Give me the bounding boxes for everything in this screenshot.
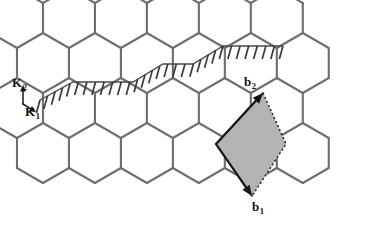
hatch-tick <box>118 82 122 95</box>
hatch-tick <box>245 46 249 59</box>
lattice-edge <box>277 168 303 183</box>
lattice-edge <box>17 168 43 183</box>
lattice-edge <box>173 0 199 3</box>
hatch-tick <box>271 46 275 59</box>
lattice-edge <box>43 0 69 3</box>
vector-label-b2: b2 <box>244 75 255 88</box>
lattice-edge <box>17 33 43 48</box>
lattice-edge <box>225 0 251 3</box>
lattice-edge <box>0 123 17 138</box>
lattice-canvas <box>0 0 370 233</box>
lattice-edge <box>199 0 225 3</box>
unit-cell-rhombus <box>216 93 286 196</box>
lattice-edge <box>17 0 43 3</box>
hatch-tick <box>164 64 168 77</box>
lattice-edge <box>147 168 173 183</box>
lattice-edge <box>173 168 199 183</box>
lattice-edge <box>199 123 225 138</box>
lattice-edge <box>199 78 225 93</box>
lattice-edge <box>303 78 329 93</box>
lattice-edge <box>69 0 95 3</box>
lattice-edge <box>121 168 147 183</box>
vector-label-b1: b1 <box>252 200 263 213</box>
lattice-edge <box>69 123 95 138</box>
lattice-edge <box>121 123 147 138</box>
lattice-edge <box>147 0 173 3</box>
vector-label-k2: K2 <box>12 76 26 89</box>
lattice-edge <box>147 33 173 48</box>
hatch-tick <box>126 82 130 95</box>
lattice-edge <box>251 0 277 3</box>
lattice-edge <box>17 123 43 138</box>
hatch-tick <box>262 46 266 59</box>
lattice-edge <box>303 33 329 48</box>
lattice-edge <box>0 33 17 48</box>
lattice-edge <box>173 33 199 48</box>
lattice-edge <box>69 33 95 48</box>
lattice-edge <box>95 33 121 48</box>
hatch-tick <box>254 46 258 59</box>
lattice-edge <box>147 123 173 138</box>
lattice-edge <box>277 0 303 3</box>
hatch-tick <box>181 64 185 77</box>
vector-label-k1: K1 <box>25 105 39 118</box>
lattice-edge <box>303 168 329 183</box>
lattice-edge <box>173 78 199 93</box>
lattice-edge <box>121 33 147 48</box>
lattice-edge <box>95 78 121 93</box>
lattice-edge <box>199 33 225 48</box>
lattice-edge <box>277 78 303 93</box>
honeycomb-lattice-figure: K2 K1 b2 b1 <box>0 0 370 233</box>
lattice-edge <box>95 168 121 183</box>
lattice-edge <box>43 123 69 138</box>
lattice-edge <box>43 33 69 48</box>
unit-cell-fill <box>216 93 286 196</box>
lattice-edge <box>95 0 121 3</box>
lattice-edge <box>95 123 121 138</box>
hatch-tick <box>228 46 232 59</box>
lattice-edge <box>121 0 147 3</box>
honeycomb-lattice-edges <box>0 0 329 183</box>
lattice-edge <box>199 168 225 183</box>
lattice-edge <box>43 168 69 183</box>
lattice-edge <box>69 78 95 93</box>
hatch-tick <box>190 64 194 77</box>
lattice-edge <box>69 168 95 183</box>
lattice-edge <box>303 123 329 138</box>
hatch-tick <box>236 46 240 59</box>
hatch-tick <box>75 82 79 95</box>
lattice-edge <box>173 123 199 138</box>
hatch-tick <box>279 46 283 59</box>
lattice-edge <box>147 78 173 93</box>
lattice-edge <box>0 0 17 3</box>
